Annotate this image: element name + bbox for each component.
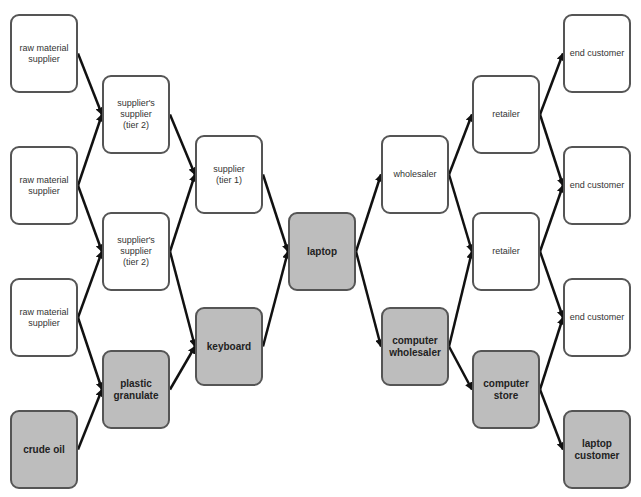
arrow-raw2-to-s2b [78,186,102,252]
node-label: plastic granulate [113,378,158,402]
node-label: computer wholesaler [389,335,441,359]
node-sup1: supplier (tier 1) [195,135,263,214]
node-label: retailer [492,109,520,120]
arrow-raw2-to-s2a [78,115,102,186]
arrow-compwh-to-compstore [449,347,472,390]
node-s2a: supplier's supplier (tier 2) [102,75,170,154]
arrow-compstore-to-lapcust [540,390,563,450]
node-crude: crude oil [10,410,78,489]
node-label: raw material supplier [19,175,68,197]
arrow-wholesaler-to-ret1 [449,115,472,175]
node-label: end customer [570,48,625,59]
node-raw1: raw material supplier [10,14,78,93]
node-label: supplier (tier 1) [213,164,245,186]
arrow-s2b-to-keyboard [170,252,195,347]
node-label: laptop customer [574,438,619,462]
node-label: retailer [492,246,520,257]
arrow-ret2-to-end3 [540,252,563,318]
arrow-ret2-to-end2 [540,186,563,252]
arrow-raw3-to-s2b [78,252,102,318]
node-ret1: retailer [472,75,540,154]
arrow-ret1-to-end2 [540,115,563,186]
node-lapcust: laptop customer [563,410,631,489]
arrow-compstore-to-end3 [540,318,563,390]
arrow-crude-to-plastic [78,390,102,450]
node-label: supplier's supplier (tier 2) [117,98,155,131]
node-plastic: plastic granulate [102,350,170,429]
arrow-sup1-to-laptop [263,175,288,252]
node-label: keyboard [207,341,251,353]
node-label: end customer [570,180,625,191]
node-raw2: raw material supplier [10,146,78,225]
node-label: laptop [307,246,337,258]
node-label: end customer [570,312,625,323]
node-label: wholesaler [393,169,436,180]
node-s2b: supplier's supplier (tier 2) [102,212,170,291]
arrow-raw3-to-plastic [78,318,102,390]
node-raw3: raw material supplier [10,278,78,357]
arrow-s2b-to-sup1 [170,175,195,252]
node-label: supplier's supplier (tier 2) [117,235,155,268]
node-compwh: computer wholesaler [381,307,449,386]
node-keyboard: keyboard [195,307,263,386]
arrow-compwh-to-ret2 [449,252,472,347]
node-end1: end customer [563,14,631,93]
node-label: raw material supplier [19,43,68,65]
arrow-s2a-to-sup1 [170,115,195,175]
node-label: crude oil [23,444,65,456]
node-label: computer store [483,378,529,402]
node-label: raw material supplier [19,307,68,329]
node-laptop: laptop [288,212,356,291]
arrow-raw1-to-s2a [78,54,102,115]
arrow-laptop-to-compwh [356,252,381,347]
arrow-laptop-to-wholesaler [356,175,381,252]
node-end3: end customer [563,278,631,357]
arrow-plastic-to-keyboard [170,347,195,390]
node-wholesaler: wholesaler [381,135,449,214]
node-end2: end customer [563,146,631,225]
node-compstore: computer store [472,350,540,429]
arrow-wholesaler-to-ret2 [449,175,472,252]
node-ret2: retailer [472,212,540,291]
arrow-ret1-to-end1 [540,54,563,115]
arrow-keyboard-to-laptop [263,252,288,347]
